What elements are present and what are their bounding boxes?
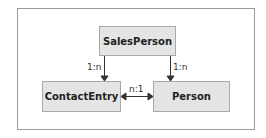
connectors bbox=[0, 0, 266, 138]
edge-label-salesperson-contactentry: 1:n bbox=[87, 62, 101, 72]
node-contactentry: ContactEntry bbox=[42, 81, 121, 112]
node-salesperson: SalesPerson bbox=[99, 26, 176, 56]
edge-label-contactentry-person: n:1 bbox=[129, 84, 143, 94]
edge-label-salesperson-person: 1:n bbox=[173, 62, 187, 72]
node-person: Person bbox=[153, 81, 230, 112]
